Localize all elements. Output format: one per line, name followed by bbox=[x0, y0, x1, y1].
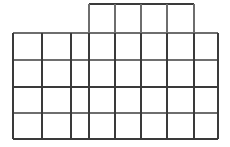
grid-figure-svg bbox=[0, 0, 230, 147]
lower-block-vertical-lines bbox=[13, 33, 218, 139]
upper-block-vertical-lines bbox=[89, 4, 194, 33]
grid-figure-canvas bbox=[0, 0, 230, 147]
